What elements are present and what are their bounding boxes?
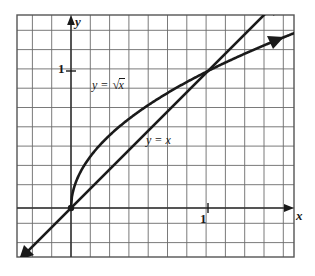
y-axis-tick-label: 1: [58, 62, 65, 75]
radical-group: √x: [111, 78, 124, 91]
radicand: x: [119, 78, 125, 91]
x-axis-label: x: [296, 209, 303, 222]
linear-curve-arrowhead: [264, 1, 279, 16]
x-axis-tick-label: 1: [200, 212, 207, 225]
curve-label-sqrt: y = √x: [92, 78, 125, 91]
math-graph-figure: y = √x y = x 1 1 y x: [0, 0, 315, 276]
curve-label-linear: y = x: [146, 134, 171, 146]
sqrt-label-equals: =: [100, 78, 108, 92]
sqrt-label-lhs: y: [92, 78, 97, 92]
y-axis-label: y: [75, 15, 81, 28]
intersection-origin: [68, 205, 74, 211]
